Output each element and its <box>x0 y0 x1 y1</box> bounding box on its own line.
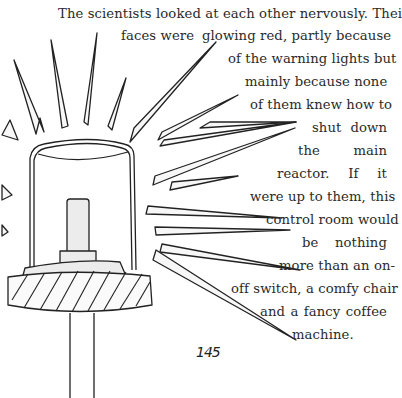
book-page: The scientists looked at each other nerv… <box>0 0 402 398</box>
beacon-base-icon <box>8 271 152 312</box>
text-line: mainly because none <box>245 74 387 89</box>
text-line: off switch, a comfy chair <box>231 281 387 296</box>
text-line: the main <box>298 143 387 158</box>
text-line: faces were <box>121 28 194 43</box>
text-line: machine. <box>292 327 354 342</box>
text-line: control room would <box>266 212 387 227</box>
text-line: were up to them, this <box>250 189 387 204</box>
text-line: reactor. If it <box>277 166 387 181</box>
text-line: of them knew how to <box>250 97 387 112</box>
text-line: of the warning lights but <box>228 51 387 66</box>
page-number: 145 <box>196 344 220 360</box>
text-line: shut down <box>312 120 387 135</box>
text-line: glowing red, partly because <box>202 28 387 43</box>
beacon-pole-icon <box>70 313 94 398</box>
text-line: be nothing <box>302 235 387 250</box>
text-line: and a fancy coffee <box>260 304 387 319</box>
text-line: more than an on- <box>279 258 387 273</box>
text-line: The scientists looked at each other nerv… <box>58 6 387 21</box>
bulb-icon <box>22 199 126 279</box>
